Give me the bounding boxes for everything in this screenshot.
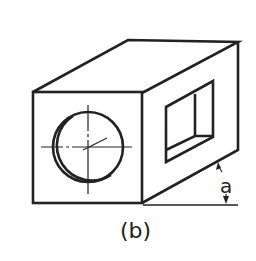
isometric-box-diagram: a (b) — [0, 0, 256, 261]
angle-label: a — [220, 174, 232, 198]
front-hole-crescent — [57, 116, 111, 181]
figure-caption: (b) — [120, 218, 151, 243]
side-window — [166, 81, 213, 162]
axis-offset-line — [83, 138, 107, 150]
window-inner-depth — [166, 136, 213, 150]
